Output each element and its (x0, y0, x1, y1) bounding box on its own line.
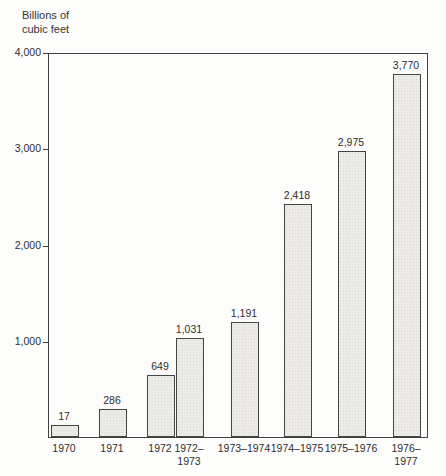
plot-area (48, 53, 428, 438)
x-axis-tick-label: 1976–1977 (386, 442, 426, 468)
bar-value-label: 649 (151, 360, 169, 373)
y-axis-unit-label-line1: Billions of (22, 8, 69, 22)
bar-1971 (99, 409, 127, 437)
y-axis-tick-label: 2,000 (0, 239, 41, 252)
bar-1973–1974 (231, 322, 259, 437)
bar-1976–1977 (393, 74, 421, 437)
y-axis-tick-mark (43, 149, 48, 150)
bar-value-label: 1,191 (231, 307, 257, 320)
y-axis-unit-label-line2: cubic feet (22, 22, 69, 36)
y-axis-tick-mark (43, 246, 48, 247)
bar-value-label: 2,418 (284, 189, 310, 202)
y-axis-tick-label: 4,000 (0, 46, 41, 59)
bar-value-label: 2,975 (338, 136, 364, 149)
x-axis-tick-label: 1975–1976 (325, 442, 378, 455)
bar-1975–1976 (338, 151, 366, 437)
bar-value-label: 3,770 (393, 59, 419, 72)
y-axis-tick-label: 3,000 (0, 142, 41, 155)
x-axis-tick-label: 1972 (148, 442, 171, 455)
x-axis-tick-label: 1972– 1973 (174, 442, 203, 468)
bar-value-label: 286 (103, 394, 121, 407)
bar-chart-figure: Billions of cubic feet 1,0002,0003,0004,… (0, 0, 446, 476)
y-axis-tick-mark (43, 342, 48, 343)
bar-value-label: 17 (58, 410, 70, 423)
bar-value-label: 1,031 (176, 323, 202, 336)
y-axis-unit-label: Billions of cubic feet (22, 8, 69, 36)
x-axis-tick-label: 1974–1975 (271, 442, 324, 455)
bar-1972–1973 (176, 338, 204, 437)
bar-1972 (147, 375, 175, 437)
x-axis-tick-label: 1971 (100, 442, 123, 455)
x-axis-tick-label: 1973–1974 (218, 442, 271, 455)
bar-1970 (51, 425, 79, 437)
x-axis-tick-label: 1970 (52, 442, 75, 455)
y-axis-tick-label: 1,000 (0, 335, 41, 348)
y-axis-tick-mark (43, 53, 48, 54)
bar-1974–1975 (284, 204, 312, 437)
